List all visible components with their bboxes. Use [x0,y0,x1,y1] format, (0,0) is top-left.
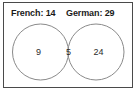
left-only-count: 9 [30,47,47,57]
venn-diagram-figure: French: 14 German: 29 9 5 24 [0,0,137,93]
right-only-count: 24 [89,47,108,57]
right-set-label: German: 29 [66,8,115,18]
left-set-label: French: 14 [11,8,56,18]
intersection-count: 5 [60,47,77,57]
